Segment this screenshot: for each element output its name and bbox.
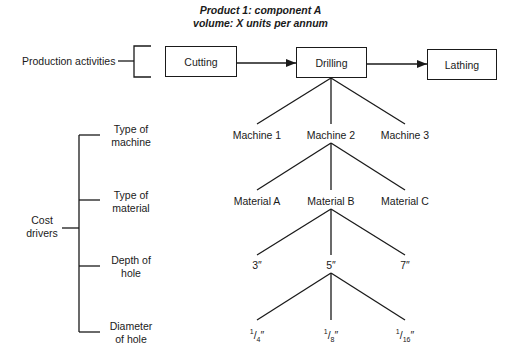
- cost-drivers-line2: drivers: [18, 227, 66, 240]
- production-activities-label: Production activities: [22, 55, 115, 68]
- option-machine-3: Machine 3: [370, 129, 440, 142]
- driver-line2: material: [100, 202, 162, 215]
- fraction-denominator: 8: [331, 336, 335, 343]
- activity-box-cutting: Cutting: [165, 46, 237, 77]
- fraction-denominator: 4: [257, 336, 261, 343]
- driver-line1: Type of: [100, 123, 162, 136]
- option-depth-5: 5″: [306, 259, 356, 272]
- driver-line1: Type of: [100, 189, 162, 202]
- activity-label: Drilling: [315, 57, 347, 69]
- option-material-a: Material A: [222, 195, 292, 208]
- fraction-numerator: 1: [250, 328, 254, 335]
- activity-label: Cutting: [184, 56, 217, 68]
- driver-line2: machine: [100, 136, 162, 149]
- activity-box-drilling: Drilling: [296, 47, 367, 78]
- activity-box-lathing: Lathing: [427, 49, 497, 80]
- driver-label-diameter: Diameter of hole: [100, 320, 162, 346]
- option-material-c: Material C: [370, 195, 440, 208]
- cost-drivers-line1: Cost: [18, 214, 66, 227]
- fraction-numerator: 1: [396, 328, 400, 335]
- option-diameter-quarter: 1/4″: [232, 325, 282, 346]
- option-machine-1: Machine 1: [222, 129, 292, 142]
- option-machine-2: Machine 2: [296, 129, 366, 142]
- activity-label: Lathing: [445, 59, 479, 71]
- fraction-denominator: 16: [403, 336, 411, 343]
- option-material-b: Material B: [296, 195, 366, 208]
- option-diameter-eighth: 1/8″: [306, 325, 356, 346]
- driver-line2: hole: [100, 267, 162, 280]
- cost-drivers-label: Cost drivers: [18, 214, 66, 240]
- driver-label-depth: Depth of hole: [100, 254, 162, 280]
- option-depth-3: 3″: [232, 259, 282, 272]
- fraction-numerator: 1: [324, 328, 328, 335]
- driver-label-machine: Type of machine: [100, 123, 162, 149]
- driver-label-material: Type of material: [100, 189, 162, 215]
- driver-line1: Diameter: [100, 320, 162, 333]
- option-depth-7: 7″: [380, 259, 430, 272]
- option-diameter-sixteenth: 1/16″: [380, 325, 430, 346]
- driver-line2: of hole: [100, 333, 162, 346]
- driver-line1: Depth of: [100, 254, 162, 267]
